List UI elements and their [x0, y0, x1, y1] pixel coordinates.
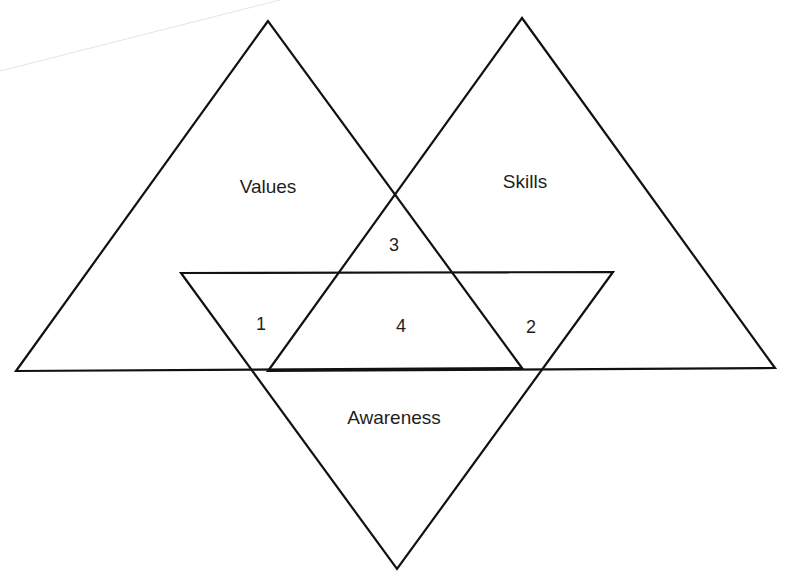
triangle-venn-diagram: [0, 0, 785, 582]
region-1-label: 1: [256, 315, 266, 333]
values-label: Values: [240, 177, 297, 196]
region-3-label: 3: [389, 236, 399, 254]
awareness-label: Awareness: [347, 408, 441, 427]
skills-triangle: [268, 18, 775, 371]
region-4-label: 4: [396, 317, 406, 335]
region-2-label: 2: [526, 318, 536, 336]
skills-label: Skills: [503, 172, 547, 191]
scan-artifact-line: [0, 0, 280, 71]
